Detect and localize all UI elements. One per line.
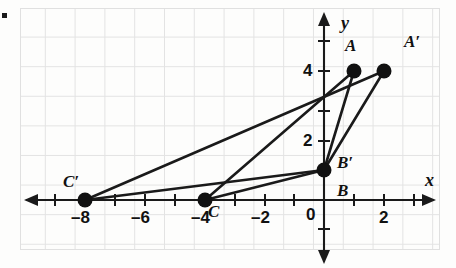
y-axis-label: y <box>341 14 349 32</box>
point-label-a-prime: A′ <box>404 33 420 50</box>
origin-label: 0 <box>306 206 315 223</box>
point-a-prime <box>377 64 392 79</box>
x-tick-label--4: –4 <box>191 209 210 226</box>
coordinate-plot <box>0 0 456 268</box>
y-tick-label-2: 2 <box>303 132 312 149</box>
segment-ab-prime <box>324 71 384 170</box>
figure-canvas: y x A A′ B B′ C C′ –8 –6 –4 –2 2 0 2 4 <box>0 0 456 268</box>
x-tick-label--6: –6 <box>131 209 150 226</box>
point-b <box>317 163 332 178</box>
y-tick-label-4: 4 <box>303 62 312 79</box>
y-axis <box>318 12 330 264</box>
x-axis-label: x <box>425 171 434 189</box>
point-a <box>347 64 362 79</box>
x-tick-label--8: –8 <box>71 209 90 226</box>
x-tick-label-2: 2 <box>379 209 388 226</box>
triangle-abc <box>205 71 354 200</box>
point-c-prime <box>78 193 93 208</box>
point-label-b-prime: B′ <box>337 154 353 171</box>
point-label-a: A <box>345 37 356 54</box>
x-tick-label--2: –2 <box>251 209 270 226</box>
point-label-c-prime: C′ <box>63 173 79 190</box>
point-label-b: B <box>337 182 348 199</box>
